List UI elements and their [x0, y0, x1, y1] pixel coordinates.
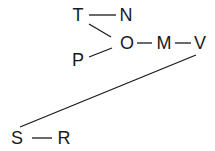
graph-diagram: TNOMVPSR — [0, 0, 215, 151]
node-n: N — [120, 5, 133, 25]
node-p: P — [72, 50, 84, 70]
edge-p-o — [89, 48, 112, 57]
node-m: M — [157, 33, 172, 53]
node-v: V — [194, 33, 206, 53]
node-o: O — [120, 33, 134, 53]
edge-v-s — [20, 55, 196, 127]
node-r: R — [58, 128, 71, 148]
node-s: S — [11, 128, 23, 148]
node-t: T — [73, 5, 84, 25]
nodes-group: TNOMVPSR — [11, 5, 206, 148]
edge-t-o — [89, 24, 111, 37]
